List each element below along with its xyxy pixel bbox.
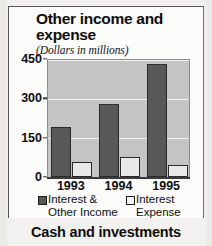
legend-swatch-light-icon (126, 196, 135, 205)
x-tick-label-1995: 1995 (152, 179, 180, 193)
legend-label-interest-other-income: Interest &Other Income (48, 193, 118, 218)
y-tick-mark-300 (43, 98, 47, 99)
legend-item-interest-expense: InterestExpense (126, 193, 181, 218)
y-tick-label-150: 150 (21, 131, 42, 145)
bar-1994-interest-expense (120, 157, 140, 177)
bar-1995-interest-expense (168, 165, 188, 177)
y-tick-mark-450 (43, 58, 47, 59)
bar-1993-interest-other-income (51, 127, 71, 177)
x-tick-label-1993: 1993 (57, 179, 85, 193)
plot-wrapper: 0150300450 199319941995 (47, 59, 190, 177)
legend-swatch-dark-icon (38, 196, 47, 205)
gridline-300 (48, 99, 190, 101)
bottom-caption: Cash and investments (0, 224, 212, 240)
legend-label-line2: Other Income (48, 206, 118, 219)
paper-edge-left (0, 0, 7, 246)
y-tick-label-0: 0 (35, 170, 42, 184)
y-tick-mark-0 (43, 176, 47, 177)
y-tick-label-300: 300 (21, 91, 42, 105)
paper-edge-right (206, 0, 212, 246)
bar-1993-interest-expense (72, 162, 92, 177)
legend-label-interest-expense: InterestExpense (136, 193, 181, 218)
bar-1994-interest-other-income (99, 104, 119, 177)
legend-label-line2: Expense (136, 206, 181, 219)
chart-subtitle: (Dollars in millions) (36, 44, 204, 57)
y-tick-label-450: 450 (21, 52, 42, 66)
legend-label-line1: Interest (136, 193, 174, 205)
gridline-450 (48, 59, 190, 61)
legend-label-line1: Interest & (48, 193, 97, 205)
bar-1995-interest-other-income (147, 64, 167, 177)
plot-area (47, 59, 190, 177)
x-tick-label-1994: 1994 (105, 179, 133, 193)
chart-legend: Interest &Other Income InterestExpense (38, 193, 202, 218)
title-block: Other income and expense (Dollars in mil… (36, 11, 204, 57)
figure-page: Other income and expense (Dollars in mil… (0, 0, 212, 246)
y-tick-mark-150 (43, 137, 47, 138)
legend-item-interest-other-income: Interest &Other Income (38, 193, 126, 218)
chart-title: Other income and expense (36, 11, 204, 42)
